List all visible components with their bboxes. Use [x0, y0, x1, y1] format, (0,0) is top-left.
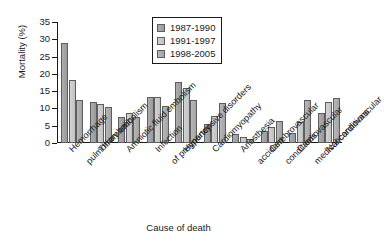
- legend-swatch-icon: [157, 50, 165, 58]
- legend-label: 1991-1997: [170, 35, 215, 46]
- legend-swatch-icon: [157, 37, 165, 45]
- y-axis-tick-label: 20: [39, 68, 50, 79]
- y-axis-tick-label: 0: [45, 137, 50, 148]
- y-axis-tick-label: 30: [39, 33, 50, 44]
- legend-item[interactable]: 1987-1990: [157, 21, 215, 34]
- y-axis-tick: 0: [52, 143, 57, 144]
- bar[interactable]: [61, 43, 68, 143]
- y-axis-tick-label: 35: [39, 16, 50, 27]
- y-axis-tick-label: 5: [45, 120, 50, 131]
- x-axis-title: Cause of death: [0, 222, 357, 233]
- y-axis-tick-label: 15: [39, 85, 50, 96]
- y-axis-tick-label: 25: [39, 51, 50, 62]
- legend-label: 1998-2005: [170, 48, 215, 59]
- legend-label: 1987-1990: [170, 22, 215, 33]
- chart-legend: 1987-19901991-19971998-2005: [152, 17, 222, 64]
- y-axis-tick-label: 10: [39, 102, 50, 113]
- bar-group: [61, 22, 83, 143]
- legend-item[interactable]: 1998-2005: [157, 47, 215, 60]
- bar[interactable]: [69, 80, 76, 143]
- legend-swatch-icon: [157, 24, 165, 32]
- y-axis-title: Mortality (%): [16, 0, 27, 107]
- legend-item[interactable]: 1991-1997: [157, 34, 215, 47]
